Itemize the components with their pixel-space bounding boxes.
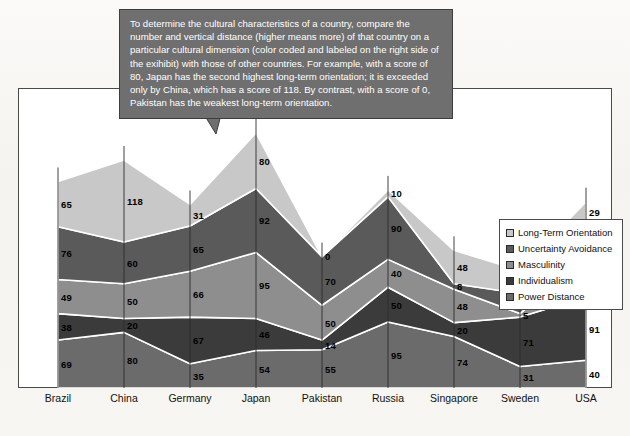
legend-swatch-icon xyxy=(506,293,514,301)
x-tick-sweden: Sweden xyxy=(501,392,539,404)
legend-swatch-icon xyxy=(506,277,514,285)
legend-item-label: Individualism xyxy=(518,276,573,286)
legend-swatch-icon xyxy=(506,261,514,269)
x-tick-china: China xyxy=(110,392,137,404)
legend-item-label: Uncertainty Avoidance xyxy=(518,244,612,254)
x-tick-japan: Japan xyxy=(242,392,271,404)
x-tick-singapore: Singapore xyxy=(430,392,478,404)
x-tick-germany: Germany xyxy=(168,392,211,404)
legend-swatch-icon xyxy=(506,245,514,253)
chart-legend: Long-Term Orientation Uncertainty Avoida… xyxy=(499,219,623,310)
legend-item-individualism[interactable]: Individualism xyxy=(506,273,617,288)
legend-item-long-term-orientation[interactable]: Long-Term Orientation xyxy=(506,225,617,240)
legend-swatch-icon xyxy=(506,229,514,237)
x-tick-russia: Russia xyxy=(372,392,404,404)
x-axis-country-labels: BrazilChinaGermanyJapanPakistanRussiaSin… xyxy=(18,392,612,414)
callout-text: To determine the cultural characteristic… xyxy=(130,17,442,110)
x-tick-pakistan: Pakistan xyxy=(302,392,342,404)
x-tick-brazil: Brazil xyxy=(45,392,71,404)
x-tick-usa: USA xyxy=(575,392,597,404)
legend-item-label: Power Distance xyxy=(518,292,585,302)
annotation-callout: To determine the cultural characteristic… xyxy=(119,9,453,119)
legend-item-masculinity[interactable]: Masculinity xyxy=(506,257,617,272)
legend-item-power-distance[interactable]: Power Distance xyxy=(506,289,617,304)
legend-item-label: Masculinity xyxy=(518,260,565,270)
legend-item-uncertainty-avoidance[interactable]: Uncertainty Avoidance xyxy=(506,241,617,256)
legend-item-label: Long-Term Orientation xyxy=(518,228,613,238)
